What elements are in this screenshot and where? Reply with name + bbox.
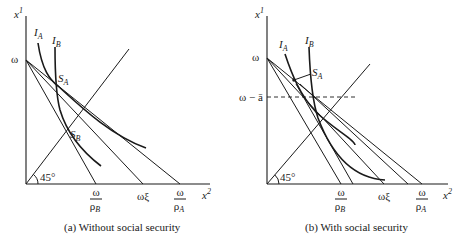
angle-label: 45° <box>40 171 55 183</box>
point-sa-pointer <box>294 74 311 80</box>
indifference-curve-ia <box>285 54 355 145</box>
x-tick-omega-xi: ωξ <box>137 190 149 203</box>
y-axis-label: x1 <box>13 6 23 20</box>
svg-text:ρA: ρA <box>174 200 185 214</box>
curve-label-ia: IA <box>33 26 43 41</box>
45-degree-line <box>26 49 129 184</box>
y-axis-label: x1 <box>254 6 264 20</box>
indifference-curve-ib <box>55 47 101 166</box>
curve-label-ib: IB <box>304 34 314 49</box>
curve-label-ia: IA <box>278 38 288 53</box>
x-axis-label: x2 <box>201 187 211 201</box>
svg-text:ω: ω <box>337 186 344 198</box>
point-label-sa: SA <box>58 72 69 87</box>
x-tick-omega-over-rho-b: ω ρB <box>90 186 102 214</box>
svg-text:ρB: ρB <box>90 200 101 214</box>
x-axis-label: x2 <box>442 187 452 201</box>
svg-text:ρA: ρA <box>416 200 427 214</box>
svg-text:ρB: ρB <box>335 200 346 214</box>
indifference-curve-ia <box>38 43 146 148</box>
svg-text:ω: ω <box>418 186 425 198</box>
svg-text:ω: ω <box>176 186 183 198</box>
x-tick-omega-xi: ωξ <box>378 190 390 203</box>
panel-b: x1 x2 ω ω − ā 45° ω ρB ωξ ω ρA IA IB SA … <box>239 6 452 234</box>
angle-label: 45° <box>280 171 295 183</box>
x-tick-omega-over-rho-a: ω ρA <box>174 186 186 214</box>
omega-tick-label: ω <box>11 53 18 65</box>
indifference-curve-ib <box>309 47 385 180</box>
x-tick-omega-over-rho-a: ω ρA <box>416 186 428 214</box>
budget-line-rho-a <box>26 60 180 184</box>
panel-a: x1 x2 ω 45° ω ρB ωξ ω ρA IA IB SA SB (a)… <box>11 6 211 234</box>
omega-tick-label: ω <box>252 51 259 63</box>
budget-line-rho-a <box>267 58 422 184</box>
angle-arc <box>33 174 38 184</box>
point-label-sa: SA <box>312 66 323 81</box>
svg-text:ω: ω <box>92 186 99 198</box>
caption-a: (a) Without social security <box>64 221 181 234</box>
curve-label-ib: IB <box>51 34 61 49</box>
social-security-diagram: x1 x2 ω 45° ω ρB ωξ ω ρA IA IB SA SB (a)… <box>0 0 464 247</box>
omega-minus-a-tick-label: ω − ā <box>239 91 263 103</box>
angle-arc <box>275 175 279 184</box>
x-tick-omega-over-rho-b: ω ρB <box>335 186 347 214</box>
caption-b: (b) With social security <box>305 221 408 234</box>
budget-line-omega-xi <box>26 60 143 184</box>
